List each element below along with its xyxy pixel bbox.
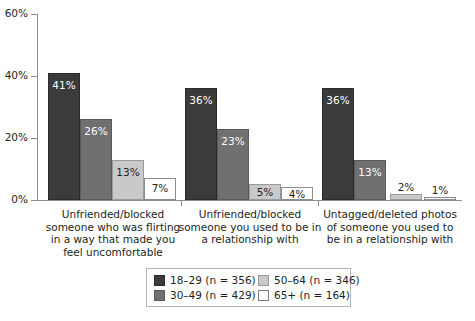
- bar-group-3-age-65-plus: 1%: [424, 197, 456, 200]
- bar-value-label: 36%: [323, 95, 353, 106]
- y-axis-label-40: 40%: [0, 70, 28, 81]
- legend-item-65-plus: 65+ (n = 164): [258, 289, 360, 301]
- bar-value-label: 2%: [391, 182, 421, 193]
- legend-item-50-64: 50–64 (n = 346): [258, 274, 360, 286]
- bar-group-1-age-50-64: 13%: [112, 160, 144, 200]
- category-label-line: Unfriended/blocked: [175, 208, 325, 221]
- category-label-line: Untagged/deleted photos: [314, 208, 466, 221]
- legend-swatch-icon-30-49: [154, 290, 165, 301]
- bar-group-1-age-18-29: 41%: [48, 73, 80, 200]
- y-axis-label-0: 0%: [0, 194, 28, 205]
- x-axis-group-separator-tick-2: [318, 200, 319, 206]
- bar-group-1-age-65-plus: 7%: [144, 178, 176, 200]
- legend-label: 65+ (n = 164): [274, 289, 350, 301]
- x-axis-baseline: [37, 200, 462, 201]
- y-axis-line: [37, 14, 38, 200]
- legend-label: 18–29 (n = 356): [170, 274, 256, 286]
- bar-value-label: 26%: [81, 126, 111, 137]
- legend-swatch-icon-18-29: [154, 275, 165, 286]
- bar-group-2-age-30-49: 23%: [217, 129, 249, 200]
- legend-item-30-49: 30–49 (n = 429): [154, 289, 258, 301]
- x-axis-group-separator-tick-1: [181, 200, 182, 206]
- bar-group-2-age-18-29: 36%: [185, 88, 217, 200]
- bar-group-1-age-30-49: 26%: [80, 119, 112, 200]
- y-axis-tick-40: [31, 76, 38, 77]
- category-label-line: of someone you used to: [314, 221, 466, 234]
- y-axis-tick-60: [31, 14, 38, 15]
- category-label-line: a relationship with: [175, 233, 325, 246]
- category-label-line: in a way that made you: [38, 233, 188, 246]
- bar-value-label: 36%: [186, 95, 216, 106]
- legend-swatch-icon-65-plus: [258, 290, 269, 301]
- bar-group-2-age-50-64: 5%: [249, 184, 281, 200]
- legend-swatch-icon-50-64: [258, 275, 269, 286]
- bar-value-label: 1%: [425, 185, 455, 196]
- bar-group-3-age-50-64: 2%: [390, 194, 422, 200]
- legend-item-18-29: 18–29 (n = 356): [154, 274, 258, 286]
- category-label-line: someone you used to be in: [175, 221, 325, 234]
- bar-group-3-age-18-29: 36%: [322, 88, 354, 200]
- bar-group-2-age-65-plus: 4%: [281, 187, 313, 200]
- category-label-line: feel uncomfortable: [38, 246, 188, 259]
- category-label-line: be in a relationship with: [314, 233, 466, 246]
- bar-value-label: 41%: [49, 80, 79, 91]
- chart-legend: 18–29 (n = 356) 50–64 (n = 346) 30–49 (n…: [146, 268, 351, 307]
- category-label-line: someone who was flirting: [38, 221, 188, 234]
- bar-value-label: 4%: [282, 189, 312, 200]
- y-axis-label-20: 20%: [0, 132, 28, 143]
- legend-label: 30–49 (n = 429): [170, 289, 256, 301]
- bar-value-label: 23%: [218, 136, 248, 147]
- y-axis-tick-0: [31, 200, 38, 201]
- category-label-group-2: Unfriended/blocked someone you used to b…: [175, 208, 325, 246]
- age-group-digital-breakup-bar-chart: 0% 20% 40% 60% 41% 26% 13% 7% 36% 23% 5%…: [0, 0, 475, 321]
- y-axis-tick-20: [31, 138, 38, 139]
- bar-value-label: 5%: [250, 187, 280, 198]
- bar-value-label: 13%: [113, 167, 143, 178]
- bar-value-label: 13%: [355, 167, 385, 178]
- y-axis-label-60: 60%: [0, 8, 28, 19]
- bar-group-3-age-30-49: 13%: [354, 160, 386, 200]
- bar-value-label: 7%: [145, 183, 175, 194]
- legend-label: 50–64 (n = 346): [274, 274, 360, 286]
- category-label-group-3: Untagged/deleted photos of someone you u…: [314, 208, 466, 246]
- category-label-group-1: Unfriended/blocked someone who was flirt…: [38, 208, 188, 258]
- category-label-line: Unfriended/blocked: [38, 208, 188, 221]
